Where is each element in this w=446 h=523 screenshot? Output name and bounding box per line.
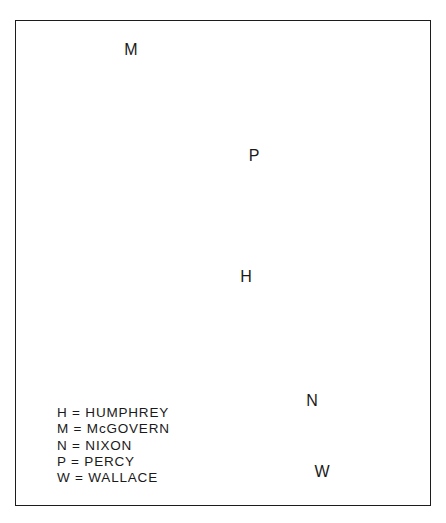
legend-item-percy: P = PERCY — [57, 454, 170, 470]
legend-item-mcgovern: M = McGOVERN — [57, 421, 170, 437]
point-mcgovern: M — [124, 42, 137, 58]
point-percy: P — [249, 148, 260, 164]
legend-item-wallace: W = WALLACE — [57, 470, 170, 486]
legend: H = HUMPHREY M = McGOVERN N = NIXON P = … — [57, 405, 170, 486]
point-nixon: N — [306, 393, 318, 409]
point-humphrey: H — [240, 269, 252, 285]
point-wallace: W — [314, 464, 329, 480]
legend-item-nixon: N = NIXON — [57, 438, 170, 454]
legend-item-humphrey: H = HUMPHREY — [57, 405, 170, 421]
